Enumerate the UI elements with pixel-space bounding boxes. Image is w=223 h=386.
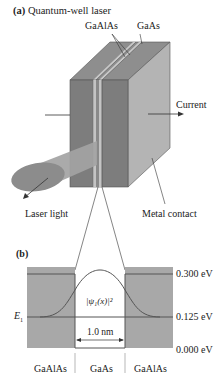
panel-a-tag: (a) <box>13 5 25 16</box>
label-gaas-top: GaAs <box>137 21 160 31</box>
panel-a-title: (a) Quantum-well laser <box>13 6 111 17</box>
region-label-right: GaAlAs <box>134 364 167 374</box>
laser-beam <box>9 141 97 199</box>
energy-band-diagram <box>27 267 173 373</box>
label-energy-top: 0.300 eV <box>176 269 213 279</box>
label-current: Current <box>176 100 207 110</box>
region-label-center: GaAs <box>90 364 113 374</box>
label-gaalas-top: GaAlAs <box>85 21 118 31</box>
region-label-left: GaAlAs <box>34 364 67 374</box>
label-wavefunction: |ψ₁(x)|² <box>86 297 112 306</box>
panel-a-title-text: Quantum-well laser <box>28 5 111 16</box>
label-laser-light: Laser light <box>25 209 68 219</box>
panel-b-tag: (b) <box>16 249 28 259</box>
label-metal-contact: Metal contact <box>142 209 197 219</box>
zoom-lines <box>75 187 125 270</box>
label-e1: E1 <box>14 311 23 323</box>
e1-subscript: 1 <box>20 317 23 323</box>
label-energy-e1: 0.125 eV <box>176 312 213 322</box>
label-well-width: 1.0 nm <box>87 328 113 338</box>
label-energy-bottom: 0.000 eV <box>176 345 213 355</box>
